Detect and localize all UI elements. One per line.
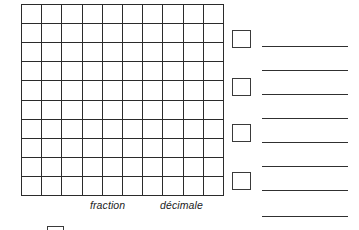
grid-cell[interactable] (62, 5, 82, 24)
grid-cell[interactable] (62, 62, 82, 81)
grid-cell[interactable] (143, 62, 163, 81)
grid-cell[interactable] (163, 120, 183, 139)
grid-cell[interactable] (22, 62, 42, 81)
answer-write-line[interactable] (262, 94, 348, 95)
grid-cell[interactable] (204, 62, 224, 81)
grid-cell[interactable] (103, 62, 123, 81)
grid-cell[interactable] (62, 43, 82, 62)
grid-cell[interactable] (143, 43, 163, 62)
grid-cell[interactable] (123, 101, 143, 120)
grid-cell[interactable] (184, 139, 204, 158)
grid-cell[interactable] (143, 5, 163, 24)
grid-cell[interactable] (103, 5, 123, 24)
grid-cell[interactable] (83, 158, 103, 177)
grid-cell[interactable] (83, 81, 103, 100)
grid-cell[interactable] (204, 81, 224, 100)
grid-cell[interactable] (62, 177, 82, 196)
hundred-grid[interactable] (21, 4, 224, 196)
grid-cell[interactable] (42, 158, 62, 177)
grid-cell[interactable] (123, 81, 143, 100)
grid-cell[interactable] (42, 81, 62, 100)
grid-cell[interactable] (103, 81, 123, 100)
grid-cell[interactable] (83, 139, 103, 158)
grid-cell[interactable] (123, 24, 143, 43)
grid-cell[interactable] (42, 5, 62, 24)
grid-cell[interactable] (22, 177, 42, 196)
grid-cell[interactable] (184, 81, 204, 100)
grid-cell[interactable] (204, 139, 224, 158)
grid-cell[interactable] (83, 24, 103, 43)
grid-cell[interactable] (204, 101, 224, 120)
grid-cell[interactable] (163, 43, 183, 62)
grid-cell[interactable] (22, 158, 42, 177)
answer-checkbox[interactable] (232, 172, 251, 190)
grid-cell[interactable] (83, 43, 103, 62)
grid-cell[interactable] (184, 62, 204, 81)
grid-cell[interactable] (184, 24, 204, 43)
grid-cell[interactable] (143, 139, 163, 158)
grid-cell[interactable] (62, 120, 82, 139)
grid-cell[interactable] (22, 5, 42, 24)
grid-cell[interactable] (163, 24, 183, 43)
answer-checkbox[interactable] (232, 124, 251, 142)
grid-cell[interactable] (42, 43, 62, 62)
grid-cell[interactable] (83, 5, 103, 24)
grid-cell[interactable] (163, 139, 183, 158)
answer-write-line[interactable] (262, 190, 348, 191)
answer-write-line[interactable] (262, 46, 348, 47)
grid-cell[interactable] (83, 120, 103, 139)
grid-cell[interactable] (62, 81, 82, 100)
grid-cell[interactable] (184, 177, 204, 196)
grid-cell[interactable] (123, 62, 143, 81)
grid-cell[interactable] (163, 5, 183, 24)
grid-cell[interactable] (42, 101, 62, 120)
grid-cell[interactable] (22, 24, 42, 43)
answer-checkbox[interactable] (232, 30, 251, 48)
grid-cell[interactable] (62, 158, 82, 177)
grid-cell[interactable] (22, 120, 42, 139)
grid-cell[interactable] (83, 101, 103, 120)
grid-cell[interactable] (103, 43, 123, 62)
grid-cell[interactable] (184, 43, 204, 62)
grid-cell[interactable] (22, 43, 42, 62)
grid-cell[interactable] (103, 120, 123, 139)
grid-cell[interactable] (42, 139, 62, 158)
grid-cell[interactable] (42, 177, 62, 196)
grid-cell[interactable] (123, 139, 143, 158)
grid-cell[interactable] (204, 120, 224, 139)
grid-cell[interactable] (204, 177, 224, 196)
grid-cell[interactable] (123, 43, 143, 62)
grid-cell[interactable] (163, 158, 183, 177)
grid-cell[interactable] (143, 158, 163, 177)
grid-cell[interactable] (103, 177, 123, 196)
grid-cell[interactable] (62, 24, 82, 43)
grid-cell[interactable] (143, 120, 163, 139)
answer-write-line[interactable] (262, 70, 348, 71)
answer-write-line[interactable] (262, 142, 348, 143)
partial-checkbox-next-item[interactable] (47, 226, 64, 230)
answer-write-line[interactable] (262, 166, 348, 167)
grid-cell[interactable] (163, 101, 183, 120)
grid-cell[interactable] (103, 139, 123, 158)
grid-cell[interactable] (163, 62, 183, 81)
grid-cell[interactable] (143, 81, 163, 100)
grid-cell[interactable] (22, 81, 42, 100)
grid-cell[interactable] (42, 120, 62, 139)
grid-cell[interactable] (184, 158, 204, 177)
grid-cell[interactable] (163, 81, 183, 100)
grid-cell[interactable] (204, 24, 224, 43)
answer-checkbox[interactable] (232, 78, 251, 96)
grid-cell[interactable] (42, 62, 62, 81)
grid-cell[interactable] (22, 139, 42, 158)
grid-cell[interactable] (123, 5, 143, 24)
grid-cell[interactable] (123, 177, 143, 196)
grid-cell[interactable] (143, 24, 163, 43)
answer-write-line[interactable] (262, 118, 348, 119)
grid-cell[interactable] (123, 158, 143, 177)
grid-cell[interactable] (184, 101, 204, 120)
grid-cell[interactable] (184, 5, 204, 24)
grid-cell[interactable] (83, 62, 103, 81)
grid-cell[interactable] (62, 139, 82, 158)
grid-cell[interactable] (184, 120, 204, 139)
grid-cell[interactable] (163, 177, 183, 196)
